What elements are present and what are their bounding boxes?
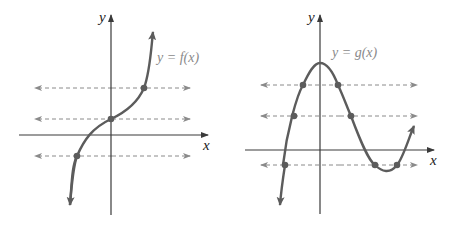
x-axis-label-right: x bbox=[430, 152, 437, 169]
y-axis-label-left: y bbox=[99, 9, 106, 26]
y-axis-label-right: y bbox=[308, 9, 315, 26]
graph-f bbox=[19, 15, 208, 215]
horizontal-test-lines bbox=[35, 88, 190, 156]
function-label-f: y = f(x) bbox=[157, 50, 199, 66]
function-label-g: y = g(x) bbox=[332, 45, 377, 61]
horizontal-line-test-figure bbox=[0, 0, 452, 226]
x-axis-label-left: x bbox=[203, 137, 210, 154]
